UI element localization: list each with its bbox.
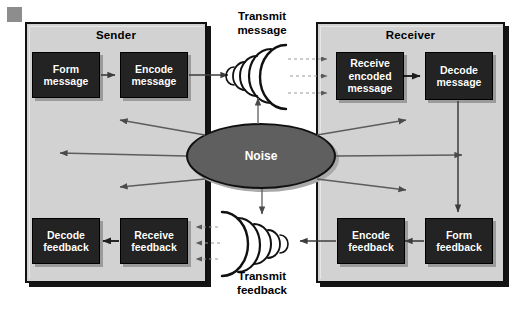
- receiver-panel-title: Receiver: [318, 29, 503, 41]
- noise-label: Noise: [245, 149, 278, 163]
- transmit-feedback-waves: [222, 212, 288, 276]
- box-decode-feedback: Decode feedback: [32, 218, 100, 264]
- box-decode-message: Decode message: [425, 52, 493, 100]
- box-encode-message: Encode message: [120, 52, 188, 98]
- box-encode-feedback: Encode feedback: [337, 218, 405, 264]
- noise-ellipse: Noise: [186, 123, 336, 189]
- sender-panel-title: Sender: [27, 29, 205, 41]
- box-decode-feedback-label: Decode feedback: [43, 229, 89, 254]
- box-receive-feedback: Receive feedback: [120, 218, 188, 264]
- page-corner-marker: [7, 7, 22, 22]
- transmit-message-waves: [226, 45, 286, 109]
- diagram-canvas: Sender Form message Encode message Decod…: [0, 0, 522, 312]
- box-encode-message-label: Encode message: [132, 63, 177, 88]
- box-form-feedback-label: Form feedback: [436, 229, 482, 254]
- box-form-message-label: Form message: [44, 63, 89, 88]
- label-transmit-feedback: Transmit feedback: [212, 270, 312, 297]
- box-decode-message-label: Decode message: [437, 64, 482, 89]
- box-form-message: Form message: [32, 52, 100, 98]
- box-receive-encoded-message-label: Receive encoded message: [348, 57, 393, 95]
- page-edge-glyph: [3, 29, 13, 45]
- box-form-feedback: Form feedback: [425, 218, 493, 264]
- box-receive-feedback-label: Receive feedback: [131, 229, 177, 254]
- label-transmit-message: Transmit message: [212, 10, 312, 37]
- box-encode-feedback-label: Encode feedback: [348, 229, 394, 254]
- box-receive-encoded-message: Receive encoded message: [336, 52, 404, 100]
